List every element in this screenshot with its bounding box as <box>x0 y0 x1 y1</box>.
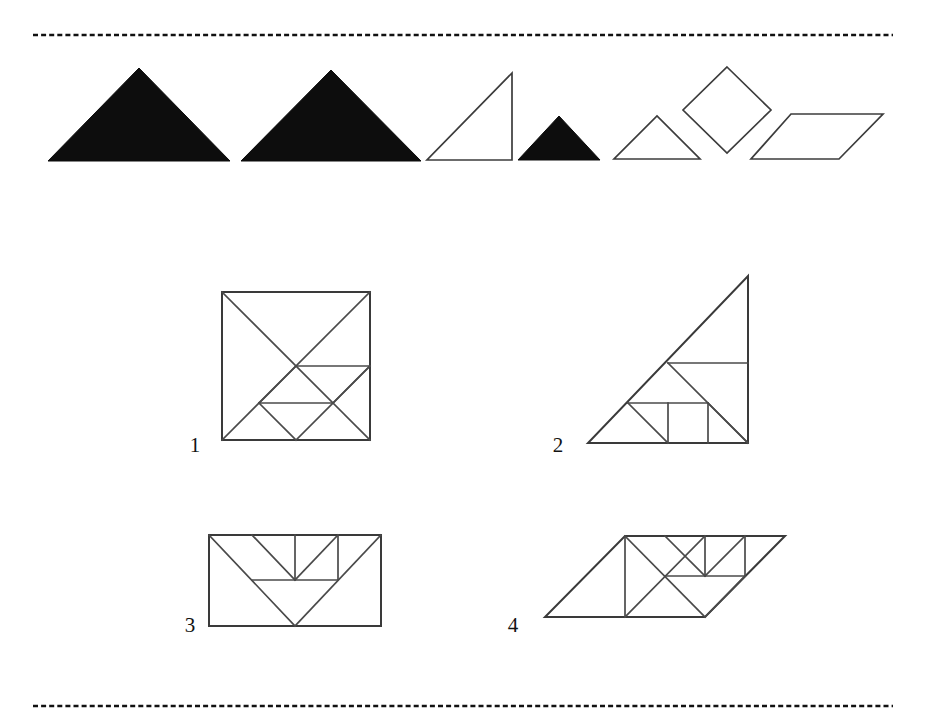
assembly-4-group: 4 <box>508 536 785 637</box>
assembly-3-group: 3 <box>185 535 381 637</box>
piece-small-triangle-1 <box>518 116 600 160</box>
piece-small-triangle-2 <box>614 116 700 159</box>
assembly-1-label: 1 <box>190 433 201 457</box>
assembly-4-label: 4 <box>508 613 519 637</box>
piece-square <box>683 67 771 153</box>
tangram-figure: 1 2 3 4 <box>0 0 926 723</box>
assembly-2-label: 2 <box>553 433 564 457</box>
piece-large-triangle-2 <box>241 70 421 161</box>
assembly-2-group: 2 <box>553 276 748 457</box>
piece-large-triangle-1 <box>48 68 230 161</box>
tangram-pieces-row <box>48 67 883 161</box>
assembly-1-group: 1 <box>190 292 370 457</box>
piece-parallelogram <box>751 114 883 159</box>
figure-canvas: 1 2 3 4 <box>0 0 926 723</box>
assembly-3-label: 3 <box>185 613 196 637</box>
piece-medium-triangle <box>427 73 512 160</box>
